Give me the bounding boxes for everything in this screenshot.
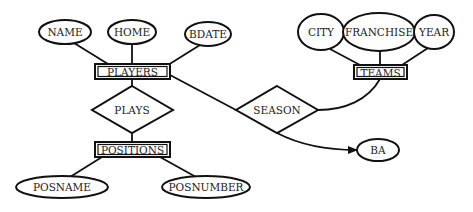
entity-teams-label: TEAMS xyxy=(360,67,400,79)
attribute-name-label: NAME xyxy=(47,26,82,38)
edge-season-ba xyxy=(277,133,357,150)
edge-bdate-players xyxy=(168,45,200,65)
attribute-posname: POSNAME xyxy=(16,176,108,198)
attribute-posnumber: POSNUMBER xyxy=(162,176,250,198)
attribute-home: HOME xyxy=(108,20,156,44)
entity-positions-label: POSITIONS xyxy=(101,144,164,156)
edge-name-players xyxy=(74,43,108,64)
edge-players-season xyxy=(170,75,236,110)
attribute-city: CITY xyxy=(298,14,344,50)
entity-teams: TEAMS xyxy=(354,65,407,79)
attribute-year-label: YEAR xyxy=(418,26,450,38)
entity-positions: POSITIONS xyxy=(95,142,170,157)
er-diagram-svg: NAME HOME BDATE CITY FRANCHISE YEAR POSN… xyxy=(0,0,473,212)
relationship-plays: PLAYS xyxy=(92,86,173,133)
attribute-posname-label: POSNAME xyxy=(33,181,91,193)
relationship-season: SEASON xyxy=(236,86,318,133)
attribute-home-label: HOME xyxy=(114,26,150,38)
attribute-city-label: CITY xyxy=(308,26,335,38)
relationship-plays-label: PLAYS xyxy=(114,104,149,116)
attribute-franchise-label: FRANCHISE xyxy=(345,26,413,38)
edge-city-teams xyxy=(330,49,360,65)
entity-players-label: PLAYERS xyxy=(107,66,158,78)
entity-players: PLAYERS xyxy=(95,64,170,79)
attribute-posnumber-label: POSNUMBER xyxy=(169,181,245,193)
relationship-season-label: SEASON xyxy=(253,104,300,116)
edge-positions-posname xyxy=(70,157,102,177)
edge-positions-posnumber xyxy=(160,157,196,177)
attribute-year: YEAR xyxy=(414,15,454,49)
attribute-ba-label: BA xyxy=(370,144,386,156)
attribute-bdate: BDATE xyxy=(185,22,231,46)
edge-year-teams xyxy=(402,48,428,65)
attribute-name: NAME xyxy=(39,20,91,44)
er-diagram: NAME HOME BDATE CITY FRANCHISE YEAR POSN… xyxy=(0,0,473,212)
attribute-bdate-label: BDATE xyxy=(189,28,227,40)
edge-season-teams xyxy=(318,79,380,110)
attribute-franchise: FRANCHISE xyxy=(343,13,415,51)
attribute-ba: BA xyxy=(357,139,399,161)
